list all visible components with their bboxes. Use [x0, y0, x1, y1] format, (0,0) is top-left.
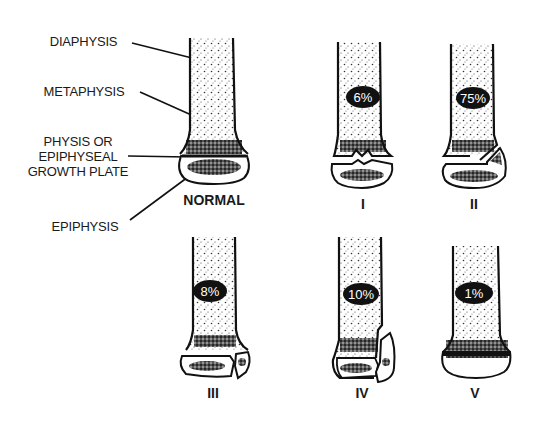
label-physis: PHYSIS OR EPIPHYSEAL GROWTH PLATE — [26, 134, 130, 179]
caption-type-2: II — [470, 196, 478, 212]
bone-normal — [179, 38, 249, 184]
bone-type-4 — [332, 237, 395, 382]
percent-badge-type-1: 6% — [346, 86, 380, 108]
bone-type-3 — [181, 237, 250, 378]
label-physis-line1: PHYSIS OR — [26, 134, 130, 149]
label-diaphysis: DIAPHYSIS — [36, 34, 131, 49]
caption-type-4: IV — [355, 385, 368, 401]
label-epiphysis: EPIPHYSIS — [40, 219, 130, 234]
percent-badge-type-3: 8% — [193, 280, 227, 302]
caption-type-1: I — [361, 196, 365, 212]
label-metaphysis: METAPHYSIS — [30, 84, 138, 99]
salter-harris-diagram: DIAPHYSIS METAPHYSIS PHYSIS OR EPIPHYSEA… — [0, 0, 543, 423]
bone-type-2 — [443, 44, 506, 188]
bone-type-5 — [442, 246, 510, 378]
bone-type-1 — [332, 42, 393, 188]
label-physis-line2: EPIPHYSEAL — [26, 149, 130, 164]
caption-type-3: III — [207, 385, 219, 401]
percent-badge-type-2: 75% — [456, 87, 490, 109]
percent-badge-type-4: 10% — [343, 283, 379, 305]
percent-badge-type-5: 1% — [455, 282, 493, 304]
caption-normal: NORMAL — [183, 192, 244, 208]
caption-type-5: V — [470, 385, 479, 401]
label-physis-line3: GROWTH PLATE — [26, 164, 130, 179]
